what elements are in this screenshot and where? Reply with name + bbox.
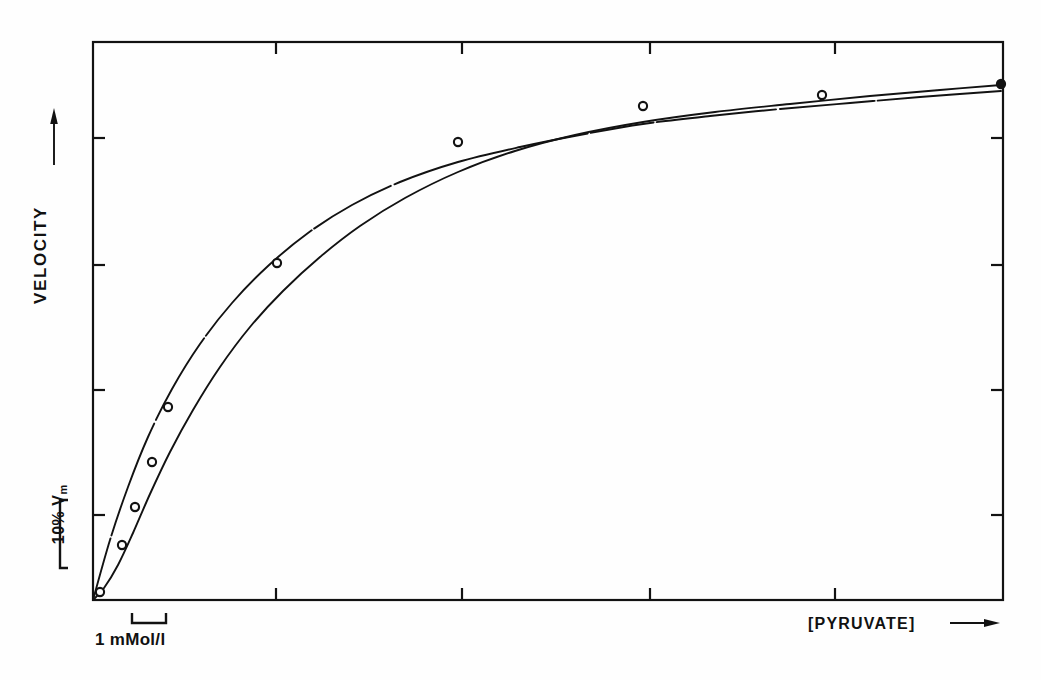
data-point-marker: [164, 403, 172, 411]
curve-hyperbolic: [93, 91, 1001, 600]
data-point-marker: [148, 458, 156, 466]
x-axis-title: [PYRUVATE]: [808, 615, 915, 633]
x-scale-bar-label: 1 mMol/l: [95, 630, 165, 650]
figure-container: VELOCITY 10% Vm 1 mMol/l [PYRUVATE]: [0, 0, 1041, 680]
plot-frame: [93, 42, 1003, 600]
data-point-marker: [997, 80, 1005, 88]
y-scale-bar-label: 10% Vm: [50, 460, 69, 570]
data-curves: [93, 85, 1001, 600]
data-point-marker: [818, 91, 826, 99]
kinetics-plot: [0, 0, 1041, 680]
data-point-marker: [96, 588, 104, 596]
y-axis-title: VELOCITY: [31, 195, 51, 315]
pyruvate-arrow-icon: [950, 619, 1000, 627]
velocity-arrow-icon: [50, 108, 58, 165]
axis-ticks: [93, 42, 1003, 600]
x-scale-bracket: [132, 613, 166, 623]
data-point-marker: [454, 138, 462, 146]
data-point-marker: [131, 503, 139, 511]
vm-value: 10% V: [50, 495, 67, 545]
data-point-marker: [273, 259, 281, 267]
data-point-marker: [639, 102, 647, 110]
curve-sigmoidal: [93, 85, 1001, 600]
data-point-marker: [118, 541, 126, 549]
vm-subscript: m: [57, 485, 69, 495]
data-point-markers: [96, 80, 1005, 596]
frame-rect: [93, 42, 1003, 600]
